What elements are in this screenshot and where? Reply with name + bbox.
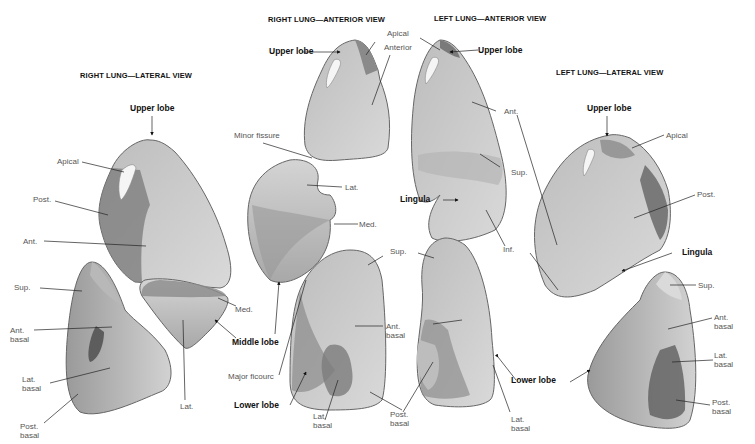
left-anterior-upper-lobe <box>412 40 507 241</box>
lung-segments-diagram: RIGHT LUNG—LATERAL VIEW RIGHT LUNG—ANTER… <box>0 0 755 444</box>
left-lateral-upper-lobe <box>534 135 670 297</box>
label-rl-post: Post. <box>33 195 51 204</box>
label-rl-lat: Lat. <box>180 402 193 411</box>
label-ra-lower-lobe: Lower lobe <box>234 401 279 410</box>
left-lateral-lower-lobe <box>588 272 696 428</box>
right-anterior-upper-lobe <box>304 40 389 160</box>
label-rl-med: Med. <box>235 305 253 314</box>
label-rl-upper-lobe: Upper lobe <box>130 104 174 113</box>
label-ra-lat-basal: Lat. basal <box>313 412 332 430</box>
label-ll-upper-lobe: Upper lobe <box>587 104 631 113</box>
label-ra-post-basal: Post. basal <box>390 410 409 428</box>
label-ra-lat: Lat. <box>345 183 358 192</box>
title-right-lung-anterior: RIGHT LUNG—ANTERIOR VIEW <box>268 15 385 24</box>
label-ll-lingula: Lingula <box>682 248 712 257</box>
label-ra-med: Med. <box>359 220 377 229</box>
label-ll-ant-basal: Ant. basal <box>714 313 733 331</box>
label-la-lingula: Lingula <box>400 195 430 204</box>
title-left-lung-lateral: LEFT LUNG—LATERAL VIEW <box>556 68 663 77</box>
label-ra-middle-lobe: Middle lobe <box>232 338 279 347</box>
label-ra-anterior: Anterior <box>384 43 412 52</box>
right-lateral-upper-lobe <box>99 140 231 288</box>
label-ll-lat-basal: Lat. basal <box>714 351 733 369</box>
label-la-inf: Inf. <box>503 245 514 254</box>
label-rl-ant-basal: Ant. basal <box>10 326 29 344</box>
label-ra-apical: Apical <box>387 29 409 38</box>
label-la-upper-lobe: Upper lobe <box>478 46 522 55</box>
left-anterior-lower-lobe <box>417 238 494 407</box>
title-left-lung-anterior: LEFT LUNG—ANTERIOR VIEW <box>434 14 546 23</box>
title-right-lung-lateral: RIGHT LUNG—LATERAL VIEW <box>80 71 192 80</box>
label-la-lower-lobe: Lower lobe <box>511 376 556 385</box>
label-rl-post-basal: Post. basal <box>20 422 39 440</box>
label-la-lat-basal: Lat. basal <box>511 415 530 433</box>
label-ra-sup: Sup. <box>390 247 406 256</box>
label-ra-major-fissure: Major ficourc <box>228 372 274 381</box>
label-la-sup: Sup. <box>511 168 527 177</box>
label-ra-upper-lobe: Upper lobe <box>269 47 313 56</box>
label-ll-post: Post. <box>697 190 715 199</box>
label-rl-sup: Sup. <box>14 283 30 292</box>
label-rl-apical: Apical <box>57 157 79 166</box>
label-ra-ant-basal: Ant. basal <box>386 322 405 340</box>
label-la-ant: Ant. <box>504 107 518 116</box>
label-ll-apical: Apical <box>666 131 688 140</box>
label-ll-sup: Sup. <box>698 281 714 290</box>
lung-illustrations <box>0 0 755 444</box>
label-rl-lat-basal: Lat. basal <box>22 375 41 393</box>
label-rl-ant: Ant. <box>23 237 37 246</box>
label-ll-post-basal: Post. basal <box>712 398 731 416</box>
label-ra-minor-fissure: Minor fissure <box>234 131 280 140</box>
